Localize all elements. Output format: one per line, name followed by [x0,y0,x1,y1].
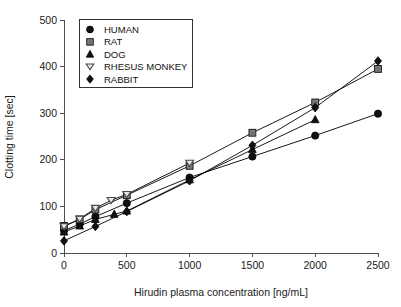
clotting-time-vs-hirudin-chart: 0100200300400500 05001000150020002500 HU… [0,0,401,307]
x-tick-label: 500 [118,259,136,271]
x-tick-label: 2000 [304,259,328,271]
x-tick-label: 1500 [241,259,265,271]
legend-label-rabbit: RABBIT [104,74,139,85]
legend-marker-human [87,26,94,33]
chart-legend: HUMANRATDOGRHESUS MONKEYRABBIT [79,19,192,87]
data-point-rat [249,129,256,136]
legend-label-human: HUMAN [104,24,139,35]
legend-marker-rat [87,39,93,45]
x-axis-title: Hirudin plasma concentration [ng/mL] [134,286,308,298]
data-point-human [123,200,130,207]
legend-label-rat: RAT [104,36,122,47]
x-tick-label: 0 [61,259,67,271]
y-tick-label: 500 [39,14,57,26]
legend-label-rhesus-monkey: RHESUS MONKEY [104,61,188,72]
data-point-human [249,153,256,160]
x-tick-label: 1000 [178,259,202,271]
data-point-human [374,110,381,117]
legend-label-dog: DOG [104,49,126,60]
data-point-rat [375,66,382,73]
data-point-human [312,132,319,139]
y-tick-label: 200 [39,153,57,165]
x-tick-label: 2500 [366,259,390,271]
y-tick-label: 400 [39,60,57,72]
y-tick-label: 100 [39,200,57,212]
chart-figure: 0100200300400500 05001000150020002500 HU… [0,0,401,307]
y-tick-label: 0 [51,247,57,259]
y-axis-title: Clotting time [sec] [3,95,15,179]
y-tick-label: 300 [39,107,57,119]
